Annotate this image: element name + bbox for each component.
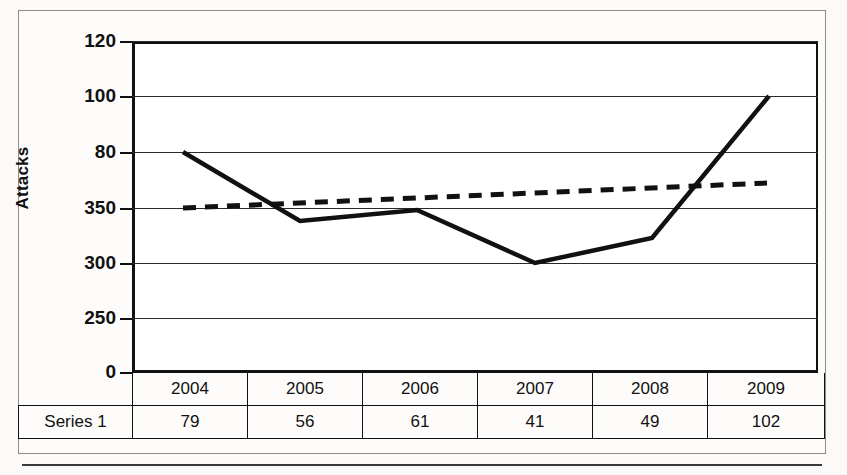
table-value-2008: 49: [593, 406, 708, 439]
table-value-2004: 79: [133, 406, 248, 439]
ytick-100: [120, 96, 132, 98]
caption-clipped: [24, 471, 324, 475]
ytick-label-250: 250: [84, 307, 116, 329]
table-header-2009: 2009: [708, 373, 825, 406]
ytick-label-120: 120: [84, 30, 116, 52]
ytick-80: [120, 152, 132, 154]
table-header-2006: 2006: [363, 373, 478, 406]
ytick-120: [120, 41, 132, 43]
table-value-2005: 56: [248, 406, 363, 439]
data-table: 2004 2005 2006 2007 2008 2009 Series 1 7…: [18, 373, 825, 439]
table-header-2004: 2004: [133, 373, 248, 406]
ytick-300: [120, 263, 132, 265]
table-row-header: 2004 2005 2006 2007 2008 2009: [19, 373, 825, 406]
table-value-2007: 41: [478, 406, 593, 439]
table-header-2005: 2005: [248, 373, 363, 406]
chart-plot-area: 120 100 80 350 300 250 0: [132, 41, 818, 373]
ytick-label-350: 350: [84, 197, 116, 219]
table-corner-cell: [19, 373, 133, 406]
figure-container: Attacks 120 100 80 350 300 250 0: [0, 0, 847, 475]
ytick-label-100: 100: [84, 85, 116, 107]
ytick-label-80: 80: [95, 141, 116, 163]
table-row-label: Series 1: [19, 406, 133, 439]
table-row-series-1: Series 1 79 56 61 41 49 102: [19, 406, 825, 439]
ytick-label-300: 300: [84, 252, 116, 274]
series-1-line: [183, 96, 769, 263]
bottom-horizontal-rule: [22, 464, 822, 466]
y-axis-title: Attacks: [13, 123, 33, 233]
table-value-2009: 102: [708, 406, 825, 439]
ytick-250: [120, 318, 132, 320]
table-header-2008: 2008: [593, 373, 708, 406]
ytick-350: [120, 208, 132, 210]
table-header-2007: 2007: [478, 373, 593, 406]
series-lines: [132, 41, 818, 373]
table-value-2006: 61: [363, 406, 478, 439]
